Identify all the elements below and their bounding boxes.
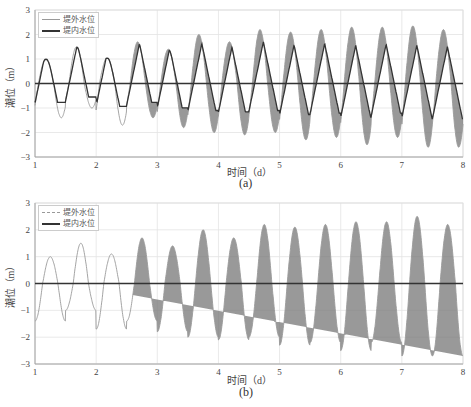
x-tick-label: 7 bbox=[400, 367, 405, 377]
legend-line-outer-icon bbox=[42, 212, 60, 213]
y-tick-label: 2 bbox=[26, 225, 31, 235]
x-tick-label: 6 bbox=[338, 367, 343, 377]
y-tick-label: −3 bbox=[20, 359, 30, 369]
legend-line-inner-icon bbox=[42, 223, 60, 225]
x-tick-label: 5 bbox=[277, 367, 282, 377]
x-tick-label: 8 bbox=[461, 367, 466, 377]
x-tick-label: 2 bbox=[94, 367, 99, 377]
y-axis-label-b: 潮位（m） bbox=[2, 261, 17, 309]
y-tick-label: −2 bbox=[20, 332, 30, 342]
y-tick-label: −1 bbox=[20, 305, 30, 315]
x-tick-label: 3 bbox=[155, 367, 160, 377]
caption-b: (b) bbox=[239, 385, 253, 400]
y-tick-label: 0 bbox=[26, 279, 31, 289]
legend-b: 堤外水位 堤内水位 bbox=[38, 205, 99, 231]
chart-panel-b: 12345678−3−2−10123 堤外水位 堤内水位 潮位（m） 时间（d）… bbox=[0, 0, 471, 407]
legend-label-inner: 堤内水位 bbox=[63, 218, 95, 229]
legend-label-outer: 堤外水位 bbox=[63, 207, 95, 218]
x-tick-label: 1 bbox=[33, 367, 38, 377]
chart-plot-b: 12345678−3−2−10123 bbox=[0, 0, 471, 407]
y-tick-label: 1 bbox=[26, 252, 31, 262]
x-tick-label: 4 bbox=[216, 367, 221, 377]
y-tick-label: 3 bbox=[26, 198, 31, 208]
